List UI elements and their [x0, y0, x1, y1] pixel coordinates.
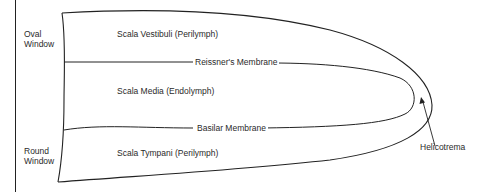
scala-media-label: Scala Media (Endolymph) [117, 86, 214, 96]
scala-media-inner-loop [262, 63, 414, 128]
cochlea-left-edge [58, 13, 65, 182]
oval-window-label-line1: Oval [24, 29, 54, 39]
round-window-label: Round Window [24, 146, 54, 166]
helicotrema-arrowhead-icon [420, 97, 426, 104]
round-window-label-line2: Window [24, 156, 54, 166]
oval-window-label: Oval Window [24, 29, 54, 49]
basilar-membrane-line-left [64, 127, 193, 130]
scala-vestibuli-label: Scala Vestibuli (Perilymph) [117, 29, 218, 39]
outer-boundary [58, 11, 432, 182]
basilar-membrane-label: Basilar Membrane [195, 123, 268, 133]
reissners-membrane-label: Reissner's Membrane [193, 57, 279, 67]
oval-window-label-line2: Window [24, 39, 54, 49]
scala-tympani-label: Scala Tympani (Perilymph) [117, 148, 218, 158]
round-window-label-line1: Round [24, 146, 54, 156]
cochlea-diagram [0, 0, 481, 192]
helicotrema-label: Helicotrema [420, 142, 465, 152]
